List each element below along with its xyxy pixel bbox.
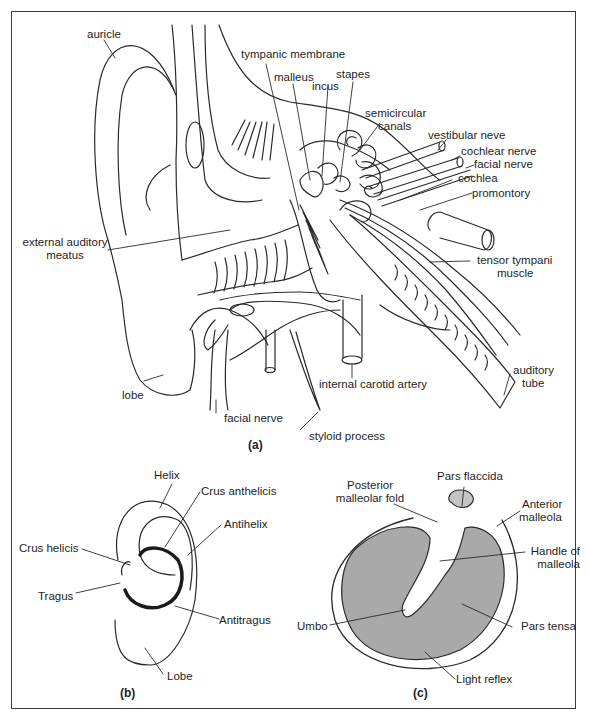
label-tensor-tympani-line2: muscle bbox=[497, 267, 533, 280]
label-cochlear-nerve: cochlear nerve bbox=[461, 145, 536, 158]
pars-tensa-shape bbox=[342, 527, 504, 660]
label-handle-of-malleola-line2: malleola bbox=[498, 558, 580, 571]
label-anterior-malleola-line2: malleola bbox=[519, 511, 562, 524]
label-crus-helicis: Crus helicis bbox=[19, 542, 78, 555]
label-auditory-tube-line1: auditory bbox=[513, 364, 554, 377]
label-malleus: malleus bbox=[274, 71, 314, 84]
label-auditory-tube-line2: tube bbox=[522, 377, 544, 390]
pars-flaccida-shape bbox=[449, 490, 474, 507]
label-external-auditory-meatus-line1: external auditory bbox=[19, 236, 111, 249]
label-tympanic-membrane: tympanic membrane bbox=[241, 48, 345, 61]
label-lobe-a: lobe bbox=[122, 389, 144, 402]
label-handle-of-malleola-line1: Handle of bbox=[498, 545, 580, 558]
auricle-outline bbox=[95, 46, 195, 396]
label-styloid-process: styloid process bbox=[309, 430, 385, 443]
label-internal-carotid-artery: internal carotid artery bbox=[319, 378, 427, 391]
label-anterior-malleola-line1: Anterior bbox=[522, 498, 562, 511]
label-lobe-b: Lobe bbox=[167, 670, 193, 683]
caption-a: (a) bbox=[248, 438, 263, 452]
label-tensor-tympani-line1: tensor tympani bbox=[477, 254, 552, 267]
label-pars-tensa: Pars tensa bbox=[521, 620, 576, 633]
label-helix: Helix bbox=[154, 469, 180, 482]
label-antihelix: Antihelix bbox=[224, 518, 267, 531]
helix-outline bbox=[115, 501, 197, 665]
label-antitragus: Antitragus bbox=[219, 614, 271, 627]
malleus-shape bbox=[300, 171, 323, 196]
label-posterior-malleolar-fold-line2: malleolar fold bbox=[325, 492, 415, 505]
concha-shading bbox=[125, 548, 182, 608]
ear-anatomy-drawing bbox=[0, 0, 589, 720]
label-semicircular-canals-line2: canals bbox=[378, 120, 411, 133]
label-cochlea: cochlea bbox=[458, 172, 498, 185]
label-facial-nerve-lower: facial nerve bbox=[224, 412, 283, 425]
label-incus: incus bbox=[312, 80, 339, 93]
label-semicircular-canals-line1: semicircular bbox=[365, 107, 426, 120]
cochlear-nerve bbox=[370, 158, 462, 194]
label-external-auditory-meatus-line2: meatus bbox=[19, 249, 111, 262]
incus-shape bbox=[318, 163, 338, 184]
label-light-reflex: Light reflex bbox=[456, 673, 512, 686]
label-umbo: Umbo bbox=[297, 620, 328, 633]
label-promontory: promontory bbox=[472, 187, 530, 200]
panel-b-drawing bbox=[115, 501, 197, 665]
label-tragus: Tragus bbox=[38, 590, 73, 603]
label-auricle: auricle bbox=[87, 28, 121, 41]
styloid-process-shape bbox=[290, 330, 320, 410]
label-vestibular-nerve: vestibular neve bbox=[428, 129, 505, 142]
label-pars-flaccida: Pars flaccida bbox=[437, 470, 503, 483]
caption-b: (b) bbox=[120, 686, 135, 700]
label-posterior-malleolar-fold-line1: Posterior bbox=[325, 479, 415, 492]
caption-c: (c) bbox=[413, 686, 428, 700]
label-crus-anthelicis: Crus anthelicis bbox=[201, 485, 276, 498]
label-stapes: stapes bbox=[336, 68, 370, 81]
label-facial-nerve-upper: facial nerve bbox=[474, 158, 533, 171]
